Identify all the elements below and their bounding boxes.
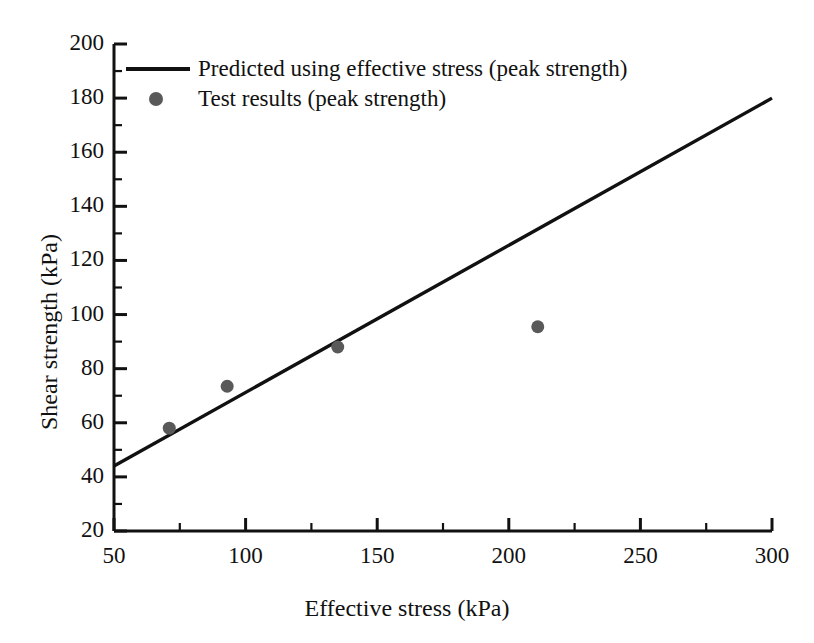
data-point-marker <box>531 320 544 333</box>
test-results-series <box>163 320 544 434</box>
legend-label-test-results: Test results (peak strength) <box>198 86 446 112</box>
y-tick-label-140: 140 <box>40 192 104 218</box>
x-tick-label-250: 250 <box>600 543 680 569</box>
x-tick-label-200: 200 <box>469 543 549 569</box>
x-axis-ticks <box>114 518 772 531</box>
axis-spines <box>114 44 772 531</box>
data-point-marker <box>163 422 176 435</box>
y-tick-label-160: 160 <box>40 138 104 164</box>
predicted-trend-line <box>114 98 772 466</box>
y-tick-label-200: 200 <box>40 30 104 56</box>
y-tick-label-20: 20 <box>40 517 104 543</box>
x-tick-label-100: 100 <box>206 543 286 569</box>
x-tick-label-300: 300 <box>732 543 812 569</box>
x-tick-label-150: 150 <box>337 543 417 569</box>
x-tick-label-50: 50 <box>74 543 154 569</box>
y-axis-title: Shear strength (kPa) <box>36 234 63 430</box>
y-tick-label-40: 40 <box>40 463 104 489</box>
x-axis-title: Effective stress (kPa) <box>0 595 814 622</box>
y-tick-label-180: 180 <box>40 84 104 110</box>
chart-figure: 20406080100120140160180200 5010015020025… <box>0 0 814 643</box>
legend-label-predicted-line: Predicted using effective stress (peak s… <box>198 56 627 82</box>
data-point-marker <box>331 341 344 354</box>
legend-dot-swatch <box>149 92 163 106</box>
legend-swatches <box>126 69 190 106</box>
data-point-marker <box>221 380 234 393</box>
predicted-line-series <box>114 98 772 466</box>
